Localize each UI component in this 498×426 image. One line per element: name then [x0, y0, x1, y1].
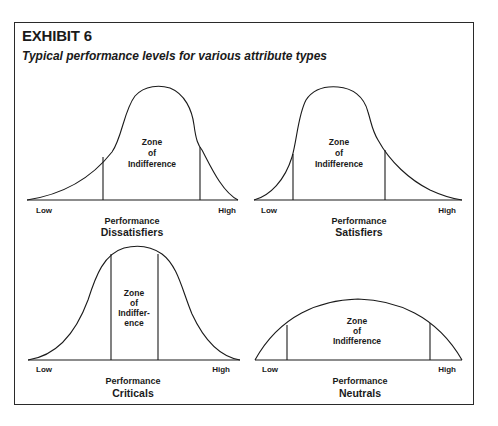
axis-high-label: High	[438, 206, 456, 215]
labels-criticals: Zone of Indiffer- ence Low High Performa…	[36, 288, 230, 399]
axis-low-label: Low	[262, 365, 279, 374]
distribution-curve	[254, 87, 462, 200]
zone-label-line: Zone	[124, 288, 145, 298]
zone-label-line: Indifference	[315, 159, 363, 169]
axis-low-label: Low	[36, 365, 53, 374]
zone-label-line: of	[130, 298, 138, 308]
panel-satisfiers	[254, 87, 462, 200]
zone-label-line: Indifference	[128, 159, 176, 169]
axis-title: Performance	[332, 376, 387, 386]
zone-label-line: of	[148, 148, 156, 158]
zone-label-line: Zone	[347, 316, 368, 326]
attribute-type-label: Dissatisfiers	[101, 226, 164, 238]
labels-satisfiers: Zone of Indifference Low High Performanc…	[261, 137, 456, 238]
axis-low-label: Low	[261, 206, 278, 215]
attribute-type-label: Neutrals	[339, 387, 381, 399]
axis-low-label: Low	[36, 206, 53, 215]
zone-label-line: Zone	[329, 137, 350, 147]
zone-label-line: Zone	[142, 137, 163, 147]
zone-label-line: ence	[124, 318, 144, 328]
panel-dissatisfiers	[27, 86, 238, 200]
zone-label-line: Indiffer-	[118, 308, 150, 318]
attribute-type-label: Satisfiers	[335, 226, 382, 238]
labels-dissatisfiers: Zone of Indifference Low High Performanc…	[36, 137, 236, 238]
zone-label-line: Indifference	[333, 336, 381, 346]
attribute-type-label: Criticals	[112, 387, 154, 399]
attribute-curves-diagram: Zone of Indifference Low High Performanc…	[0, 0, 498, 426]
zone-label-line: of	[353, 326, 361, 336]
axis-title: Performance	[104, 216, 159, 226]
labels-neutrals: Zone of Indifference Low High Performanc…	[262, 316, 456, 399]
axis-title: Performance	[331, 216, 386, 226]
axis-high-label: High	[212, 365, 230, 374]
distribution-curve	[27, 86, 238, 200]
axis-high-label: High	[438, 365, 456, 374]
axis-title: Performance	[105, 376, 160, 386]
axis-high-label: High	[218, 206, 236, 215]
zone-label-line: of	[335, 148, 343, 158]
